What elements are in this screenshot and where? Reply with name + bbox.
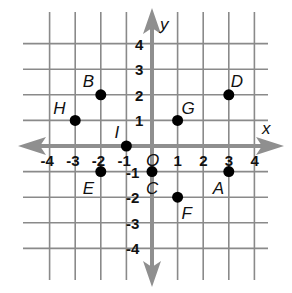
- point-f-dot: [172, 192, 183, 203]
- point-e-dot: [95, 166, 106, 177]
- x-tick-label: -4: [41, 152, 55, 169]
- point-e-label: E: [83, 179, 95, 198]
- point-b-label: B: [83, 72, 94, 91]
- y-tick-label: 3: [135, 61, 143, 78]
- y-tick-label: 2: [135, 87, 143, 104]
- y-tick-label: -4: [126, 240, 140, 257]
- y-axis-label: y: [159, 15, 170, 34]
- y-tick-label: -2: [126, 189, 139, 206]
- point-i-label: I: [114, 123, 119, 142]
- point-g-label: G: [182, 99, 195, 118]
- point-b-dot: [95, 89, 106, 100]
- x-tick-label: 4: [250, 152, 259, 169]
- y-tick-label: 1: [135, 112, 143, 129]
- y-tick-label: -1: [126, 164, 139, 181]
- point-a-dot: [223, 166, 234, 177]
- axes: [18, 8, 284, 287]
- y-tick-label: -3: [126, 215, 139, 232]
- point-a-label: A: [212, 179, 224, 198]
- x-axis-label: x: [261, 119, 271, 138]
- point-h-label: H: [53, 99, 66, 118]
- point-c-label: C: [146, 179, 159, 198]
- x-tick-label: 1: [174, 152, 182, 169]
- coordinate-plane-svg: -4-3-2-112344321-1-2-3-4 x y O ABCDEFGHI: [0, 0, 292, 293]
- point-c-dot: [147, 166, 158, 177]
- coordinate-plane: -4-3-2-112344321-1-2-3-4 x y O ABCDEFGHI: [0, 0, 292, 293]
- x-tick-label: -3: [66, 152, 79, 169]
- y-tick-label: 4: [135, 36, 144, 53]
- point-d-label: D: [231, 72, 243, 91]
- point-i-dot: [121, 141, 132, 152]
- point-f-label: F: [182, 204, 194, 223]
- point-h-dot: [70, 115, 81, 126]
- x-tick-label: -2: [92, 152, 105, 169]
- point-d-dot: [223, 89, 234, 100]
- x-tick-label: 2: [199, 152, 207, 169]
